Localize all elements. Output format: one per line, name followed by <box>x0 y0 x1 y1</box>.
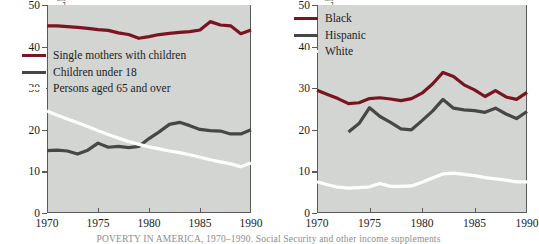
series-lines-left <box>47 5 251 213</box>
y-tick-label: 20 <box>299 124 311 136</box>
y-tick-label: 50 <box>299 0 311 11</box>
legend-label: Children under 18 <box>53 67 137 79</box>
y-tick-mark <box>312 130 317 131</box>
series-line <box>47 122 251 154</box>
y-tick-label: 10 <box>299 165 311 177</box>
series-line <box>317 173 527 188</box>
chart-panel-right: Percent of Group Living in Poverty 01020… <box>268 0 537 232</box>
y-tick-mark <box>42 171 47 172</box>
legend-swatch-icon <box>294 17 318 20</box>
x-tick-mark <box>149 208 150 213</box>
y-tick-label: 50 <box>29 0 41 11</box>
chart-panel-left: Percent of Group Living in Poverty 01020… <box>0 0 268 232</box>
x-tick-mark <box>422 208 423 213</box>
legend-swatch-icon <box>22 54 46 57</box>
x-tick-label: 1980 <box>411 217 434 229</box>
y-tick-mark <box>42 5 47 6</box>
x-tick-label: 1985 <box>463 217 486 229</box>
series-line <box>317 72 527 103</box>
legend-label: Hispanic <box>325 30 366 42</box>
legend-item: Persons aged 65 and over <box>22 83 186 95</box>
legend-swatch-icon <box>22 87 46 90</box>
y-tick-mark <box>312 5 317 6</box>
legend-item: Hispanic <box>294 30 366 42</box>
series-line <box>349 99 528 131</box>
legend-item: White <box>294 46 366 58</box>
series-line <box>47 22 251 39</box>
x-tick-mark <box>98 208 99 213</box>
legend-item: Children under 18 <box>22 67 186 79</box>
y-tick-mark <box>42 130 47 131</box>
y-tick-label: 30 <box>299 82 311 94</box>
legend-label: Single mothers with children <box>53 50 186 62</box>
x-tick-label: 1975 <box>358 217 381 229</box>
legend-label: Black <box>325 13 352 25</box>
y-tick-mark <box>312 213 317 214</box>
x-tick-label: 1990 <box>516 217 539 229</box>
x-tick-mark <box>370 208 371 213</box>
x-tick-mark <box>475 208 476 213</box>
x-tick-label: 1980 <box>138 217 161 229</box>
y-tick-mark <box>42 47 47 48</box>
legend-item: Black <box>294 13 366 25</box>
legend-swatch-icon <box>22 71 46 74</box>
y-tick-mark <box>312 88 317 89</box>
legend-swatch-icon <box>294 34 318 37</box>
y-tick-label: 20 <box>29 124 41 136</box>
x-tick-mark <box>200 208 201 213</box>
y-tick-mark <box>312 171 317 172</box>
legend-label: White <box>325 46 353 58</box>
legend-item: Single mothers with children <box>22 50 186 62</box>
y-tick-label: 10 <box>29 165 41 177</box>
figure-caption: POVERTY IN AMERICA, 1970–1990. Social Se… <box>0 234 537 244</box>
plot-area-left: 01020304050 19701975198019851990 <box>47 5 251 213</box>
x-tick-label: 1975 <box>87 217 110 229</box>
legend-label: Persons aged 65 and over <box>53 83 171 95</box>
legend-swatch-icon <box>294 50 318 53</box>
legend-right: BlackHispanicWhite <box>294 13 366 63</box>
x-tick-label: 1970 <box>306 217 329 229</box>
x-tick-label: 1970 <box>36 217 59 229</box>
x-tick-label: 1985 <box>189 217 212 229</box>
y-tick-mark <box>42 213 47 214</box>
legend-left: Single mothers with childrenChildren und… <box>22 50 186 100</box>
x-tick-label: 1990 <box>240 217 263 229</box>
